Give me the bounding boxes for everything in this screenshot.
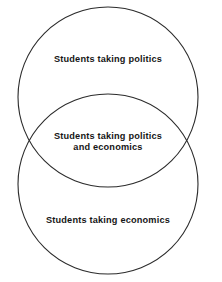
label-students-taking-politics: Students taking politics bbox=[18, 54, 198, 65]
circle-economics bbox=[18, 94, 198, 274]
venn-diagram: Students taking politics Students taking… bbox=[0, 0, 222, 282]
circle-politics bbox=[18, 7, 198, 187]
label-students-taking-politics-and-economics: Students taking politics and economics bbox=[18, 131, 198, 152]
label-students-taking-economics: Students taking economics bbox=[18, 215, 198, 226]
